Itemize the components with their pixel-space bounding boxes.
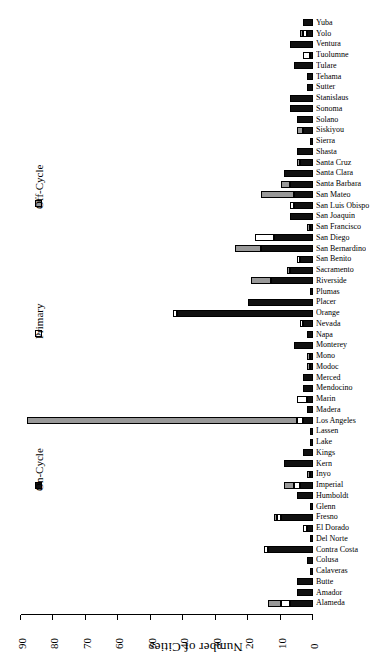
category-label: Mono [316,352,335,360]
legend-label-on-cycle: On-Cycle [33,448,45,491]
bar-segment-on-cycle [310,536,313,543]
bar-segment-on-cycle [290,95,313,102]
bar-segment-primary [300,321,303,328]
bar-segment-off-cycle [307,353,310,360]
bar-segment-on-cycle [294,63,313,70]
bar-segment-on-cycle [307,407,313,414]
bar-segment-primary [294,482,300,489]
bar-segment-on-cycle [297,116,313,123]
category-label: Sutter [316,84,335,92]
bar-segment-on-cycle [307,30,313,37]
bar-segment-on-cycle [294,192,313,199]
category-label: Placer [316,299,336,307]
category-label: Fresno [316,514,338,522]
bar-row [0,439,392,446]
bar-segment-on-cycle [303,374,313,381]
bar-segment-on-cycle [310,364,313,371]
category-label: Siskiyou [316,127,344,135]
category-label: Modoc [316,363,339,371]
bar-segment-off-cycle [284,482,294,489]
bar-segment-on-cycle [284,460,313,467]
x-axis-tick-label: 0 [308,644,320,650]
bar-segment-primary [264,546,267,553]
bar-segment-on-cycle [248,299,313,306]
category-label: Stanislaus [316,94,348,102]
bar-segment-on-cycle [297,493,313,500]
category-label: Santa Cruz [316,159,351,167]
category-label: San Francisco [316,223,361,231]
x-axis-tick [312,615,313,620]
category-label: Mendocino [316,385,352,393]
bar-segment-on-cycle [297,149,313,156]
bar-segment-primary [290,202,293,209]
category-label: Ventura [316,41,341,49]
bar-segment-on-cycle [303,385,313,392]
x-axis-tick [215,615,216,620]
category-label: Del Norte [316,535,348,543]
bar-segment-primary [255,235,274,242]
category-label: Tulare [316,62,337,70]
category-label: El Dorado [316,524,349,532]
bar-segment-on-cycle [303,450,313,457]
x-axis-tick [20,615,21,620]
x-axis-tick-label: 60 [113,638,125,649]
bar-segment-on-cycle [177,310,313,317]
bar-segment-on-cycle [303,321,313,328]
bar-segment-on-cycle [290,41,313,48]
category-label: Yuba [316,19,332,27]
bar-segment-on-cycle [281,514,313,521]
bar-segment-primary [277,514,280,521]
bar-segment-on-cycle [307,331,313,338]
category-label: Amador [316,589,342,597]
x-axis-tick-label: 20 [243,638,255,649]
category-label: Alameda [316,600,345,608]
bar-segment-on-cycle [290,267,313,274]
category-label: Sonoma [316,105,342,113]
x-axis-tick-label: 70 [81,638,93,649]
category-label: San Diego [316,234,350,242]
legend-label-off-cycle: Off-Cycle [33,165,45,209]
x-axis-tick [52,615,53,620]
bar-segment-primary [303,52,309,59]
category-label: Tehama [316,73,341,81]
bar-segment-primary [303,30,306,37]
bar-segment-primary [297,256,300,263]
category-label: Merced [316,374,340,382]
category-label: San Luis Obispo [316,202,369,210]
bar-segment-on-cycle [310,568,313,575]
bar-segment-on-cycle [310,428,313,435]
category-label: San Benito [316,256,351,264]
bar-segment-off-cycle [307,224,310,231]
x-axis-tick-label: 80 [48,638,60,649]
category-label: Sacramento [316,266,354,274]
category-label: Kern [316,460,332,468]
x-axis-tick-label: 90 [16,638,28,649]
x-axis-tick [247,615,248,620]
bar-segment-on-cycle [310,471,313,478]
category-label: Imperial [316,481,343,489]
x-axis-tick-label: 40 [178,638,190,649]
bar-segment-on-cycle [300,159,313,166]
bar-segment-on-cycle [268,546,313,553]
category-label: Marin [316,395,336,403]
category-label: Butte [316,578,333,586]
category-label: Plumas [316,288,340,296]
bar-segment-on-cycle [294,202,313,209]
category-label: Riverside [316,277,347,285]
bar-row [0,30,392,37]
bar-segment-on-cycle [307,396,313,403]
bar-segment-off-cycle [297,159,300,166]
bar-segment-primary [297,417,303,424]
bar-segment-off-cycle [268,600,281,607]
category-label: Monterey [316,342,347,350]
bar-segment-on-cycle [294,342,313,349]
bar-segment-on-cycle [290,106,313,113]
bar-segment-primary [174,310,177,317]
category-label: Napa [316,331,333,339]
bar-segment-off-cycle [287,267,290,274]
x-axis-line [21,614,313,615]
category-label: Shasta [316,148,337,156]
bar-segment-on-cycle [290,181,313,188]
bar-row [0,331,392,338]
bar-segment-on-cycle [303,127,313,134]
